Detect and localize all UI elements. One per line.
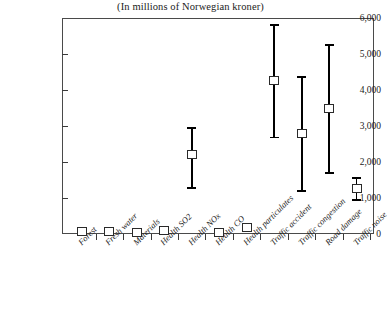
data-point-marker (324, 104, 334, 113)
errorbar-lower-cap (325, 172, 334, 174)
errorbar-upper-cap (352, 177, 361, 179)
errorbar-lower-cap (270, 137, 279, 139)
data-point-marker (269, 76, 279, 85)
data-point-errorbar (349, 175, 365, 203)
data-point-marker (104, 227, 114, 236)
data-point-marker (352, 184, 362, 193)
errorbar-lower-cap (297, 190, 306, 192)
data-point-errorbar (321, 42, 337, 176)
errorbar-lower-cap (187, 187, 196, 189)
errorbar-lower-cap (352, 199, 361, 201)
data-point-marker (132, 228, 142, 237)
data-point-errorbar (239, 221, 255, 235)
data-point-errorbar (74, 227, 90, 236)
errorbar-upper-cap (325, 44, 334, 46)
data-point-errorbar (101, 227, 117, 236)
data-point-errorbar (156, 226, 172, 236)
data-point-marker (242, 223, 252, 232)
data-point-errorbar (294, 74, 310, 193)
data-point-errorbar (129, 228, 145, 237)
data-point-marker (159, 226, 169, 235)
data-point-marker (187, 150, 197, 159)
data-point-marker (77, 227, 87, 236)
errorbar-upper-cap (270, 24, 279, 26)
data-point-errorbar (211, 228, 227, 237)
data-point-errorbar (184, 125, 200, 191)
data-point-marker (214, 228, 224, 237)
data-point-errorbar (266, 22, 282, 140)
errorbar-upper-cap (187, 127, 196, 129)
data-point-marker (297, 129, 307, 138)
errorbar-upper-cap (297, 76, 306, 78)
